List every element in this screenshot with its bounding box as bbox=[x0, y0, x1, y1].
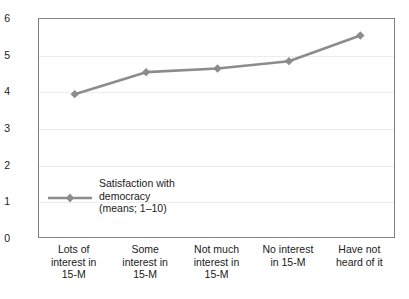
y-tick-label: 2 bbox=[0, 160, 10, 170]
x-tick-label: Have not heard of it bbox=[324, 243, 395, 281]
x-axis-labels: Lots of interest in 15-M Some interest i… bbox=[38, 243, 395, 281]
y-tick-label: 6 bbox=[0, 13, 10, 23]
y-tick-label: 4 bbox=[0, 86, 10, 96]
y-tick-label: 3 bbox=[0, 123, 10, 133]
x-tick-label: Not much interest in 15-M bbox=[181, 243, 252, 281]
y-tick-label: 1 bbox=[0, 196, 10, 206]
y-tick-label: 5 bbox=[0, 50, 10, 60]
line-chart: Satisfaction with democracy (means; 1–10… bbox=[0, 0, 409, 299]
x-tick-label: Lots of interest in 15-M bbox=[38, 243, 109, 281]
x-tick-label: Some interest in 15-M bbox=[109, 243, 180, 281]
x-tick-label: No interest in 15-M bbox=[252, 243, 323, 281]
y-tick-label: 0 bbox=[0, 233, 10, 243]
